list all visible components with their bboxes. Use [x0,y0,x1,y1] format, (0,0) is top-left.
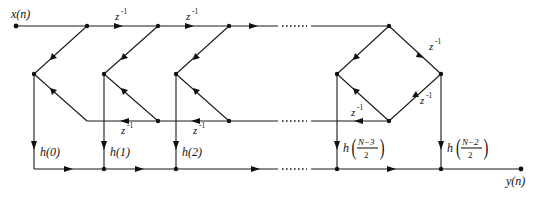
svg-text:-1: -1 [357,103,363,112]
delay-label-top-2: z -1 [185,7,198,22]
svg-text:): ) [380,133,385,161]
delay-label-top-1: z -1 [114,7,127,22]
output-sum-line [34,166,521,172]
arrow-down-icon [101,141,107,150]
arrow-down-icon [173,141,179,150]
node [85,24,89,28]
arrow-right-icon [64,166,73,172]
svg-text:h: h [343,141,349,155]
svg-text:-1: -1 [192,7,198,16]
coefficient-hN2-label: h ( N−2 2 ) [447,133,488,161]
svg-text:z: z [114,10,120,22]
output-node [519,167,524,172]
svg-text:z: z [192,124,198,136]
svg-text:2: 2 [364,150,369,160]
node [174,167,178,171]
arrow-left-icon [354,118,363,124]
arrow-down-icon [438,141,444,150]
arrow-right-icon [135,166,144,172]
delay-label-bottom-3: z -1 [350,103,363,118]
delay-label-bottom-2: z -1 [192,121,205,136]
svg-text:(: ( [456,133,461,161]
svg-text:(: ( [352,133,357,161]
svg-text:z: z [350,106,356,118]
arrow-right-icon [114,23,123,29]
svg-text:-1: -1 [435,37,441,46]
coefficient-h0-label: h(0) [40,145,60,159]
node [227,119,231,123]
arrow-right-icon [387,166,396,172]
arrow-right-icon [249,23,258,29]
svg-text:-1: -1 [121,7,127,16]
node [439,72,443,76]
arrow-down-icon [334,141,340,150]
svg-text:z: z [120,124,126,136]
svg-text:): ) [484,133,489,161]
svg-text:z: z [185,10,191,22]
node [156,24,160,28]
svg-text:2: 2 [468,150,473,160]
coefficient-hN3-label: h ( N−3 2 ) [343,133,385,161]
top-delay-line [16,23,389,29]
node [387,119,391,123]
node [102,167,106,171]
svg-text:-1: -1 [199,121,205,130]
coefficient-h2-label: h(2) [182,145,202,159]
output-label: y(n) [505,174,525,188]
svg-text:z: z [428,40,434,52]
arrow-down-left-icon [412,91,419,97]
delay-label-bottom-1: z -1 [120,121,133,136]
node [387,24,391,28]
node [439,167,443,171]
svg-text:N−3: N−3 [357,137,375,147]
input-node [14,24,19,29]
fir-linear-phase-flow-graph: x(n) y(n) z -1 z -1 z -1 z -1 z -1 z -1 … [0,0,535,198]
node [102,72,106,76]
node [227,24,231,28]
node [174,72,178,76]
arrow-down-right-icon [416,52,424,58]
svg-text:-1: -1 [426,91,432,100]
svg-text:h: h [447,141,453,155]
input-label: x(n) [10,7,30,21]
svg-text:z: z [419,94,425,106]
arrow-right-icon [185,23,194,29]
delay-label-diamond-lower: z -1 [419,91,432,106]
arrow-down-icon [31,141,37,150]
arrow-down-left-icon [193,53,200,60]
svg-text:N−2: N−2 [461,137,479,147]
delay-label-diamond-upper: z -1 [428,37,441,52]
node [32,72,36,76]
node [335,167,339,171]
node [335,72,339,76]
node [156,119,160,123]
arrow-right-icon [251,166,260,172]
coefficient-h1-label: h(1) [110,145,130,159]
svg-text:-1: -1 [127,121,133,130]
